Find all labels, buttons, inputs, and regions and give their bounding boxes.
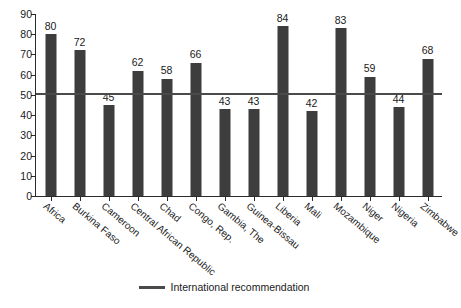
- bar-slot: 58: [152, 14, 181, 196]
- bar: [103, 105, 114, 196]
- bar-slot: 44: [384, 14, 413, 196]
- bar-slot: 59: [355, 14, 384, 196]
- bar-value-label: 43: [248, 96, 260, 107]
- x-axis-category-label: Zimbabwe: [418, 201, 460, 238]
- bar: [45, 34, 56, 196]
- bar-value-label: 84: [277, 13, 289, 24]
- bar-slot: 66: [181, 14, 210, 196]
- x-axis-category-label: Africa: [41, 201, 67, 225]
- bar-slot: 84: [268, 14, 297, 196]
- legend-item-label: International recommendation: [171, 282, 310, 293]
- bar-value-label: 42: [306, 98, 318, 109]
- bar: [190, 63, 201, 196]
- y-axis-tick-label: 70: [20, 49, 32, 60]
- bar-value-label: 43: [219, 96, 231, 107]
- bar-value-label: 44: [393, 94, 405, 105]
- bar: [422, 59, 433, 197]
- bar-value-label: 83: [335, 15, 347, 26]
- y-axis-tick-label: 90: [20, 9, 32, 20]
- y-axis-tick-label: 50: [20, 90, 32, 101]
- bar: [277, 26, 288, 196]
- x-axis-category-label: Mali: [302, 201, 322, 220]
- y-axis-tick-label: 20: [20, 150, 32, 161]
- y-axis-tick-label: 80: [20, 29, 32, 40]
- legend-line-swatch: [139, 286, 165, 289]
- bar: [74, 50, 85, 196]
- x-axis-labels: AfricaBurkina FasoCameroonCentral Africa…: [36, 197, 442, 272]
- bar-slot: 72: [65, 14, 94, 196]
- bar-slot: 62: [123, 14, 152, 196]
- bar-value-label: 59: [364, 63, 376, 74]
- bar-slot: 45: [94, 14, 123, 196]
- y-axis-tick-label: 60: [20, 69, 32, 80]
- bar-value-label: 58: [161, 65, 173, 76]
- bar: [248, 109, 259, 196]
- bar: [306, 111, 317, 196]
- bar-slot: 43: [239, 14, 268, 196]
- bar-slot: 42: [297, 14, 326, 196]
- y-axis-tick-label: 10: [20, 171, 32, 182]
- bar: [393, 107, 404, 196]
- bar-slot: 43: [210, 14, 239, 196]
- chart-legend: International recommendation: [0, 282, 448, 293]
- bar-value-label: 68: [422, 45, 434, 56]
- y-axis-tick-label: 40: [20, 110, 32, 121]
- bar-slot: 68: [413, 14, 442, 196]
- bar-series: 8072456258664343844283594468: [36, 14, 442, 196]
- bar-value-label: 72: [74, 37, 86, 48]
- bar-slot: 80: [36, 14, 65, 196]
- bar-value-label: 66: [190, 49, 202, 60]
- plot-area: 8072456258664343844283594468: [36, 14, 442, 196]
- y-axis-tick-label: 30: [20, 130, 32, 141]
- x-axis-category-label: Nigeria: [389, 201, 420, 229]
- bar-value-label: 62: [132, 57, 144, 68]
- bar: [219, 109, 230, 196]
- bar: [161, 79, 172, 196]
- y-axis-tick-label: 0: [26, 191, 32, 202]
- bar-value-label: 80: [45, 21, 57, 32]
- international-recommendation-line: [36, 93, 442, 95]
- bar-slot: 83: [326, 14, 355, 196]
- bar: [132, 71, 143, 196]
- bar: [335, 28, 346, 196]
